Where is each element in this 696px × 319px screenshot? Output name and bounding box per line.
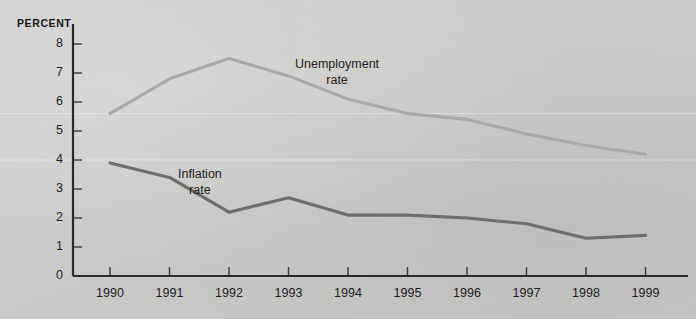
x-tick-label: 1993 [264, 286, 314, 300]
y-tick-label: 4 [41, 152, 63, 166]
annotation-unemployment-line2: rate [295, 73, 379, 89]
x-tick-label: 1999 [621, 286, 671, 300]
y-tick-label: 6 [41, 94, 63, 108]
x-tick-label: 1994 [323, 286, 373, 300]
faint-gridlines [0, 114, 696, 160]
x-tick-label: 1992 [204, 286, 254, 300]
chart-container: PERCENT 012345678 1990199119921993199419… [0, 0, 696, 319]
x-tick-label: 1995 [383, 286, 433, 300]
x-tick-label: 1996 [442, 286, 492, 300]
y-tick-label: 3 [41, 181, 63, 195]
annotation-unemployment-line1: Unemployment [295, 57, 379, 73]
x-tick-label: 1990 [85, 286, 135, 300]
x-tick-label: 1997 [502, 286, 552, 300]
annotation-inflation-line1: Inflation [178, 167, 222, 183]
y-tick-label: 2 [41, 210, 63, 224]
y-axis-caption: PERCENT [17, 17, 71, 29]
plot-area [0, 0, 696, 319]
y-tick-label: 7 [41, 65, 63, 79]
x-tick-label: 1991 [145, 286, 195, 300]
y-tick-label: 0 [41, 268, 63, 282]
annotation-unemployment: Unemployment rate [295, 57, 379, 88]
y-tick-label: 8 [41, 36, 63, 50]
y-tick-label: 1 [41, 239, 63, 253]
y-tick-label: 5 [41, 123, 63, 137]
x-tick-label: 1998 [561, 286, 611, 300]
annotation-inflation-line2: rate [178, 183, 222, 199]
annotation-inflation: Inflation rate [178, 167, 222, 198]
